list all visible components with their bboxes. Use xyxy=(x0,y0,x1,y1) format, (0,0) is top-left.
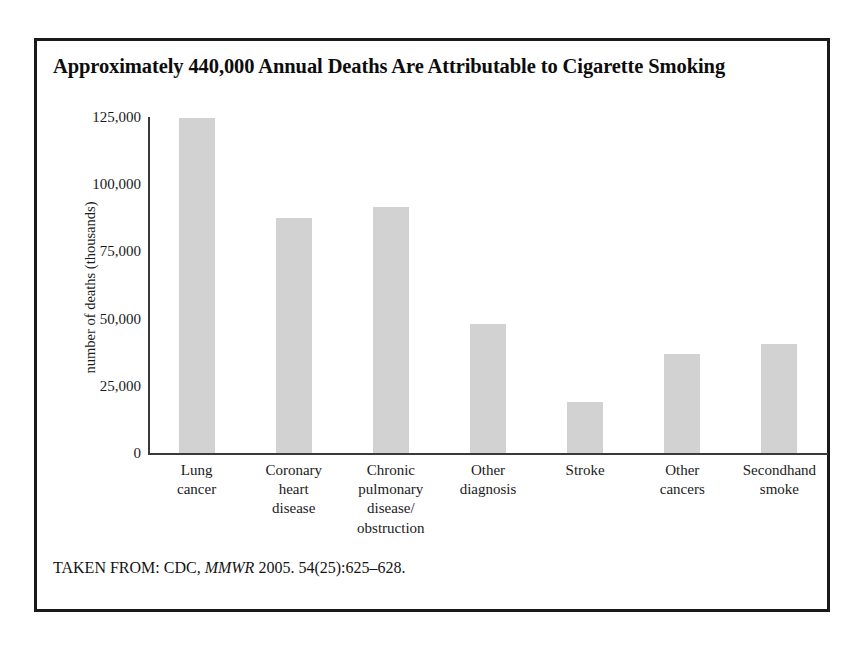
x-category-label: Coronaryheartdisease xyxy=(244,461,344,519)
x-axis-category-labels: LungcancerCoronaryheartdiseaseChronicpul… xyxy=(148,461,828,571)
bar-slot xyxy=(245,117,342,453)
bar-slot xyxy=(537,117,634,453)
source-citation: TAKEN FROM: CDC, MMWR 2005. 54(25):625–6… xyxy=(53,559,406,577)
bar-slot xyxy=(634,117,731,453)
y-tick-label: 50,000 xyxy=(55,310,141,327)
source-suffix: 2005. 54(25):625–628. xyxy=(254,559,405,576)
x-category-label: Lungcancer xyxy=(147,461,247,499)
x-category-label: Secondhandsmoke xyxy=(729,461,829,499)
bar[interactable] xyxy=(373,207,409,453)
bar-slot xyxy=(731,117,828,453)
bar[interactable] xyxy=(567,402,603,453)
y-tick-label: 0 xyxy=(55,445,141,462)
bar[interactable] xyxy=(664,354,700,453)
bar[interactable] xyxy=(179,118,215,453)
y-tick-label: 75,000 xyxy=(55,243,141,260)
y-tick-label: 100,000 xyxy=(55,176,141,193)
plot-area: number of deaths (thousands) 025,00050,0… xyxy=(37,41,833,615)
bar-slot xyxy=(342,117,439,453)
source-journal-name: MMWR xyxy=(205,559,255,576)
x-category-label: Othercancers xyxy=(632,461,732,499)
x-axis-line xyxy=(148,453,828,455)
bars-layer xyxy=(148,117,828,453)
bar[interactable] xyxy=(276,218,312,453)
x-category-label: Chronicpulmonarydisease/obstruction xyxy=(341,461,441,538)
y-tick-label: 125,000 xyxy=(55,109,141,126)
bar[interactable] xyxy=(470,324,506,453)
bar-slot xyxy=(439,117,536,453)
source-prefix: TAKEN FROM: CDC, xyxy=(53,559,205,576)
figure-frame: Approximately 440,000 Annual Deaths Are … xyxy=(34,38,830,612)
y-axis-tick-labels: 025,00050,00075,000100,000125,000 xyxy=(51,41,141,615)
x-category-label: Otherdiagnosis xyxy=(438,461,538,499)
x-category-label: Stroke xyxy=(535,461,635,480)
y-tick-label: 25,000 xyxy=(55,377,141,394)
bar-slot xyxy=(148,117,245,453)
bar[interactable] xyxy=(761,344,797,453)
